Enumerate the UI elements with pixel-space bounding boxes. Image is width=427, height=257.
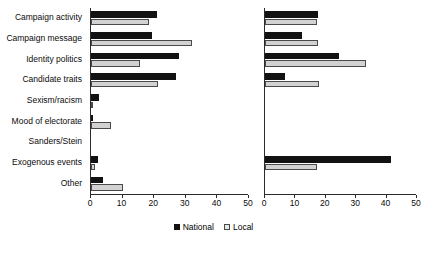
right-panel-plot-area: 01020304050 xyxy=(264,8,416,194)
left-panel-bar-local-7 xyxy=(91,164,95,171)
right-panel-bar-group-7 xyxy=(265,156,417,170)
left-panel-bar-group-7 xyxy=(91,156,249,170)
right-panel-tick-label-2: 20 xyxy=(320,199,329,208)
right-panel-bar-group-4 xyxy=(265,94,417,108)
left-panel-tick-label-4: 40 xyxy=(212,199,221,208)
category-label-7: Exogenous events xyxy=(12,158,82,167)
left-panel-bar-group-4 xyxy=(91,94,249,108)
left-panel-bar-national-8 xyxy=(91,177,103,184)
legend-item-national: National xyxy=(174,222,214,232)
right-panel: 01020304050 xyxy=(264,8,416,204)
left-panel-bar-group-8 xyxy=(91,177,249,191)
left-panel-bar-national-0 xyxy=(91,11,157,18)
left-panel-bar-local-1 xyxy=(91,40,192,47)
right-panel-tick-label-3: 30 xyxy=(350,199,359,208)
left-panel-bar-group-1 xyxy=(91,32,249,46)
left-panel: 01020304050 xyxy=(90,8,248,204)
left-panel-bar-local-5 xyxy=(91,122,111,129)
left-panel-bar-group-0 xyxy=(91,11,249,25)
category-label-6: Sanders/Stein xyxy=(29,137,82,146)
right-panel-tick-label-0: 0 xyxy=(262,199,267,208)
right-panel-bar-local-3 xyxy=(265,81,319,88)
left-panel-bar-national-4 xyxy=(91,94,99,101)
right-panel-bar-group-8 xyxy=(265,177,417,191)
right-panel-bar-national-0 xyxy=(265,11,318,18)
legend-label-national: National xyxy=(183,222,214,232)
left-panel-bar-national-5 xyxy=(91,115,93,122)
right-panel-bar-group-0 xyxy=(265,11,417,25)
legend-swatch-national-icon xyxy=(174,224,180,230)
right-panel-tick-label-5: 50 xyxy=(411,199,420,208)
right-panel-bar-local-0 xyxy=(265,19,317,26)
right-panel-bar-local-2 xyxy=(265,60,366,67)
category-label-3: Candidate traits xyxy=(22,75,82,84)
left-panel-bar-local-0 xyxy=(91,19,149,26)
left-panel-bar-national-2 xyxy=(91,53,179,60)
legend-label-local: Local xyxy=(233,222,253,232)
left-panel-bar-local-2 xyxy=(91,60,140,67)
legend-swatch-local-icon xyxy=(224,224,230,230)
left-panel-bar-national-1 xyxy=(91,32,152,39)
category-label-8: Other xyxy=(61,179,82,188)
left-panel-bar-group-6 xyxy=(91,135,249,149)
left-panel-bar-local-3 xyxy=(91,81,158,88)
left-panel-baseline-axis xyxy=(90,194,248,195)
left-panel-bar-local-4 xyxy=(91,102,93,109)
right-panel-bar-group-3 xyxy=(265,73,417,87)
left-panel-bar-local-8 xyxy=(91,184,123,191)
right-panel-baseline-axis xyxy=(264,194,416,195)
right-panel-bar-national-1 xyxy=(265,32,302,39)
right-panel-bar-national-3 xyxy=(265,73,285,80)
left-panel-tick-label-2: 20 xyxy=(148,199,157,208)
left-panel-bar-group-2 xyxy=(91,53,249,67)
category-label-5: Mood of electorate xyxy=(12,117,82,126)
category-label-1: Campaign message xyxy=(6,34,82,43)
left-panel-bar-national-7 xyxy=(91,156,98,163)
left-panel-tick-label-3: 30 xyxy=(180,199,189,208)
category-label-2: Identity politics xyxy=(26,55,82,64)
left-panel-bar-group-3 xyxy=(91,73,249,87)
legend-item-local: Local xyxy=(224,222,253,232)
right-panel-tick-label-4: 40 xyxy=(381,199,390,208)
left-panel-plot-area: 01020304050 xyxy=(90,8,248,194)
left-panel-tick-label-1: 10 xyxy=(117,199,126,208)
right-panel-bar-local-1 xyxy=(265,40,318,47)
right-panel-bar-national-2 xyxy=(265,53,339,60)
chart-legend: NationalLocal xyxy=(0,222,427,232)
left-panel-bar-national-3 xyxy=(91,73,176,80)
right-panel-bar-group-5 xyxy=(265,115,417,129)
left-panel-tick-label-5: 50 xyxy=(243,199,252,208)
category-label-0: Campaign activity xyxy=(15,13,82,22)
category-axis-labels: Campaign activityCampaign messageIdentit… xyxy=(0,8,86,204)
right-panel-bar-national-7 xyxy=(265,156,391,163)
left-panel-bar-group-5 xyxy=(91,115,249,129)
chart-figure: Campaign activityCampaign messageIdentit… xyxy=(0,0,427,257)
category-label-4: Sexism/racism xyxy=(27,96,82,105)
right-panel-bar-local-7 xyxy=(265,164,317,171)
right-panel-bar-group-6 xyxy=(265,135,417,149)
left-panel-tick-label-0: 0 xyxy=(88,199,93,208)
right-panel-bar-group-1 xyxy=(265,32,417,46)
right-panel-tick-label-1: 10 xyxy=(290,199,299,208)
right-panel-bar-group-2 xyxy=(265,53,417,67)
